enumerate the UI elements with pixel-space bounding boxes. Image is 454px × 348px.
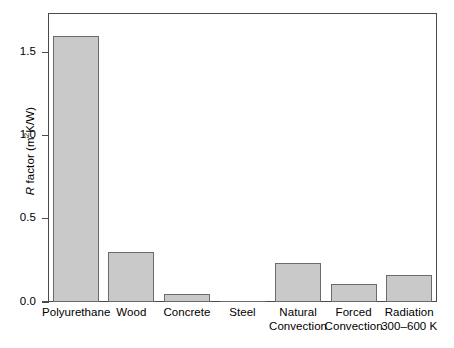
y-axis-tick-label: 1.5 — [0, 45, 36, 57]
x-axis-label-line1: Natural — [279, 306, 316, 318]
x-axis-label-line1: Forced — [336, 306, 372, 318]
x-axis-label: Radiation300–600 K — [375, 306, 443, 333]
x-axis-label-line2: 300–600 K — [375, 320, 443, 334]
x-axis-labels: PolyurethaneWoodConcreteSteelNaturalConv… — [48, 306, 437, 346]
y-axis-tick-label: 0.0 — [0, 295, 36, 307]
x-axis-label-line1: Concrete — [163, 306, 210, 318]
bar-chart: R factor (m2K/W) 0.00.51.01.5 Polyuretha… — [0, 0, 454, 348]
x-axis-label-line1: Wood — [116, 306, 146, 318]
x-axis-label-line1: Radiation — [385, 306, 434, 318]
plot-area — [48, 13, 437, 302]
y-axis-title-word: factor (m — [24, 137, 36, 187]
y-axis-tick-label: 0.5 — [0, 211, 36, 223]
y-axis-title-symbol: R — [24, 187, 36, 195]
x-axis-label-line1: Steel — [229, 306, 255, 318]
y-axis-tick-label: 1.0 — [0, 128, 36, 140]
